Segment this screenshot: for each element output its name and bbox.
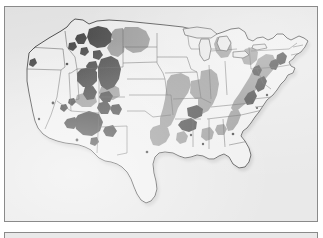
map-figure-panel — [4, 6, 318, 222]
coal-dot-arkansas — [190, 134, 192, 136]
coal-dot-nc-small — [256, 107, 258, 109]
coal-dot-california — [38, 118, 40, 120]
coal-dot-nevada — [52, 102, 55, 105]
coal-region-green-river-basin — [77, 67, 97, 87]
lower-figure-panel — [4, 232, 318, 238]
coal-region-washington — [30, 24, 43, 38]
coal-dot-arizona — [76, 139, 79, 142]
coal-dot-ms-small — [202, 143, 204, 145]
coal-dot-texas-b — [159, 156, 161, 158]
figure-root — [0, 0, 323, 238]
coal-dot-texas-a — [146, 151, 149, 154]
coal-dot-georgia — [232, 133, 235, 136]
coal-dot-idaho — [66, 63, 69, 66]
coal-dot-va-small — [266, 94, 268, 96]
united-states-coal-map[interactable] — [5, 7, 317, 221]
